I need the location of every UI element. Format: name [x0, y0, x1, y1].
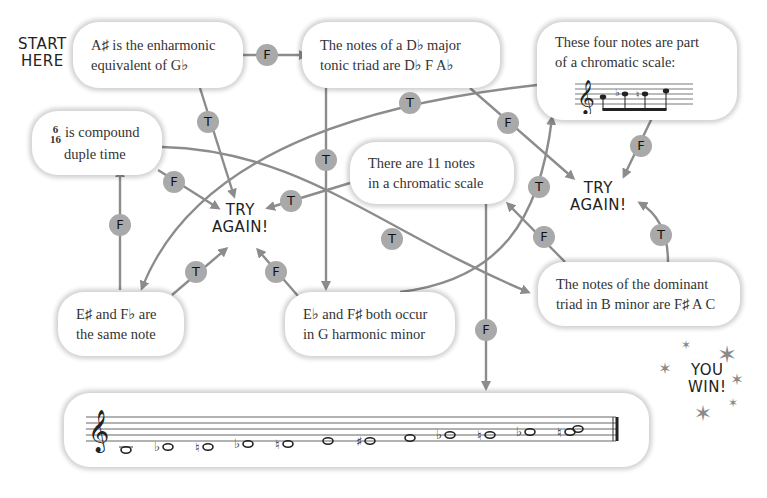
answer-badge: T	[315, 149, 337, 171]
statement-db-triad[interactable]: The notes of a D♭ major tonic triad are …	[302, 22, 500, 88]
answer-badge: F	[630, 135, 652, 157]
statement-enharmonic[interactable]: A♯ is the enharmonic equivalent of G♭	[73, 22, 243, 88]
answer-badge: T	[528, 176, 550, 198]
statement-text: E♭ and F♯ both occur	[303, 304, 437, 324]
try-again-left: TRY AGAIN!	[212, 202, 269, 236]
again-word: AGAIN!	[212, 219, 269, 236]
statement-text: duple time	[50, 144, 144, 164]
here-word: HERE	[18, 53, 67, 70]
svg-text:♮: ♮	[275, 437, 280, 452]
statement-text: The notes of a D♭ major	[320, 35, 482, 55]
statement-text: E♯ and F♭ are	[76, 304, 166, 324]
answer-badge: F	[256, 44, 278, 66]
svg-text:♮: ♮	[195, 440, 200, 455]
answer-badge: T	[381, 228, 403, 250]
answer-badge: T	[197, 111, 219, 133]
svg-text:𝄞: 𝄞	[88, 410, 109, 453]
win-word: WIN!	[688, 379, 727, 396]
star-icon: ✶	[728, 396, 738, 410]
answer-badge: F	[533, 226, 555, 248]
time-signature: 6 16	[50, 124, 61, 144]
statement-b-minor-dominant[interactable]: The notes of the dominant triad in B min…	[538, 262, 740, 326]
answer-badge: F	[265, 261, 287, 283]
svg-text:♭: ♭	[154, 439, 160, 454]
statement-text: tonic triad are D♭ F A♭	[320, 55, 482, 75]
svg-text:♮: ♮	[636, 89, 640, 100]
time-signature-bottom: 16	[50, 134, 61, 144]
answer-badge: F	[163, 171, 185, 193]
statement-text: triad in B minor are F♯ A C	[556, 294, 722, 314]
star-icon: ✶	[658, 359, 671, 378]
answer-badge: T	[185, 261, 207, 283]
statement-text: There are 11 notes	[368, 153, 496, 173]
try-word: TRY	[212, 202, 269, 219]
statement-e-sharp-f-flat[interactable]: E♯ and F♭ are the same note	[58, 292, 184, 356]
statement-text: 6 16 is compound	[50, 122, 144, 144]
compound-line-1: is compound	[65, 124, 140, 140]
try-word: TRY	[570, 180, 627, 197]
flowchart-canvas: START HERE A♯ is the enharmonic equivale…	[0, 0, 767, 498]
statement-text: These four notes are part	[555, 32, 719, 52]
star-icon: ✶	[730, 370, 743, 389]
start-here-label: START HERE	[18, 36, 67, 70]
statement-text: equivalent of G♭	[91, 55, 225, 75]
star-icon: ✶	[717, 341, 737, 369]
statement-text: in G harmonic minor	[303, 324, 437, 344]
svg-text:𝄞: 𝄞	[577, 79, 595, 114]
svg-text:♭: ♭	[516, 424, 522, 439]
answer-badge: T	[280, 190, 302, 212]
statement-text: of a chromatic scale:	[555, 52, 719, 72]
statement-text: the same note	[76, 324, 166, 344]
answer-badge: F	[109, 214, 131, 236]
final-chromatic-scale[interactable]: 𝄞 ♭ ♮ ♭ ♮ ♯ ♭ ♮ ♭ ♮	[64, 393, 649, 467]
answer-badge: T	[399, 92, 421, 114]
again-word: AGAIN!	[570, 197, 627, 214]
statement-compound-time[interactable]: 6 16 is compound duple time	[32, 111, 162, 175]
statement-g-harmonic-minor[interactable]: E♭ and F♯ both occur in G harmonic minor	[285, 292, 455, 356]
answer-badge: F	[497, 112, 519, 134]
svg-text:♮: ♮	[477, 428, 482, 443]
statement-eleven-notes[interactable]: There are 11 notes in a chromatic scale	[350, 142, 514, 204]
svg-text:♯: ♯	[356, 434, 362, 449]
answer-badge: F	[475, 319, 497, 341]
star-icon: ✶	[694, 401, 712, 426]
statement-text: A♯ is the enharmonic	[91, 35, 225, 55]
four-notes-staff: 𝄞 ♭ ♮	[573, 74, 703, 114]
star-icon: ✶	[681, 338, 691, 352]
start-word: START	[18, 36, 67, 53]
svg-text:♮: ♮	[557, 425, 562, 440]
svg-text:♭: ♭	[234, 436, 240, 451]
statement-text: The notes of the dominant	[556, 274, 722, 294]
statement-four-notes[interactable]: These four notes are part of a chromatic…	[537, 22, 737, 120]
answer-badge: T	[650, 224, 672, 246]
try-again-right: TRY AGAIN!	[570, 180, 627, 214]
svg-text:♭: ♭	[615, 87, 620, 98]
chromatic-scale-staff: 𝄞 ♭ ♮ ♭ ♮ ♯ ♭ ♮ ♭ ♮	[64, 393, 649, 467]
statement-text: in a chromatic scale	[368, 173, 496, 193]
svg-text:♭: ♭	[436, 427, 442, 442]
